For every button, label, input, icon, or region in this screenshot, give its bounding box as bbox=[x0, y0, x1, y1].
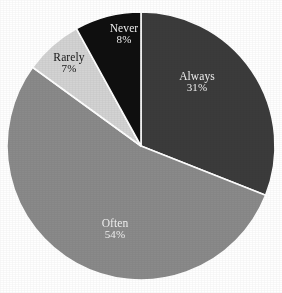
pie-chart: Always 31% Often 54% Rarely 7% Never 8% bbox=[0, 0, 282, 293]
pie-slice-group bbox=[7, 12, 275, 280]
pie-chart-canvas bbox=[0, 0, 282, 293]
